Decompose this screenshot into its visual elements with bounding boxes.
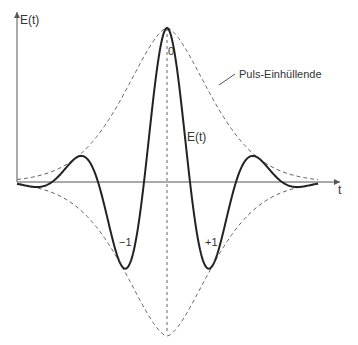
curve-label: E(t)	[187, 130, 206, 144]
envelope-leader-line	[219, 74, 235, 85]
center-extremum-label: 0	[168, 45, 174, 57]
x-axis-label: t	[338, 183, 342, 197]
lower-envelope	[17, 184, 318, 336]
right-extremum-label: +1	[205, 236, 218, 248]
pulse-diagram: E(t) t Puls-Einhüllende E(t) 0 −1 +1	[0, 0, 358, 345]
envelope-label: Puls-Einhüllende	[239, 68, 322, 80]
y-axis-label: E(t)	[20, 13, 39, 27]
left-extremum-label: −1	[119, 236, 132, 248]
